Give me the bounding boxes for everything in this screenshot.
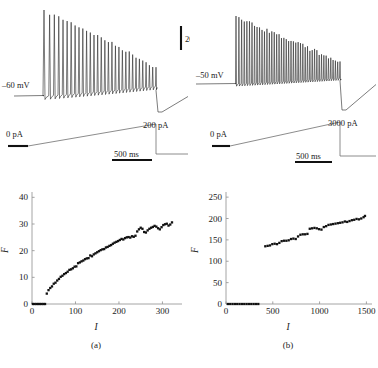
resting-voltage-label-b: –50 mV	[195, 70, 224, 80]
time-scalebar-label-a: 500 ms	[114, 149, 139, 159]
svg-text:0: 0	[218, 299, 223, 309]
resting-voltage-label-a: –60 mV	[1, 80, 30, 90]
figure-container: –60 mV 20 mV 0 pA 200 pA 500 ms –50 mV 0…	[0, 0, 378, 368]
svg-text:100: 100	[209, 256, 223, 266]
y-axis-title-a: F	[0, 247, 10, 254]
svg-text:200: 200	[209, 214, 223, 224]
chart-a-datapoints	[32, 221, 173, 305]
current-end-label-b: 3000 pA	[328, 118, 358, 128]
svg-text:0: 0	[30, 306, 35, 316]
svg-text:10: 10	[19, 272, 29, 282]
svg-text:0: 0	[224, 306, 229, 316]
spike-train-a	[14, 10, 188, 112]
x-axis-title-a: I	[93, 322, 98, 332]
chart-b-axes: 050100150200250050010001500	[209, 192, 376, 316]
current-end-label-a: 200 pA	[143, 120, 169, 130]
svg-text:20: 20	[19, 246, 29, 256]
fi-curve-panel-b: 050100150200250050010001500 F I (b)	[188, 178, 378, 368]
svg-text:1500: 1500	[357, 306, 376, 316]
current-start-label-a: 0 pA	[6, 129, 24, 139]
svg-text:50: 50	[213, 278, 223, 288]
fi-curve-panel-a: 0102030400100200300 F I (a)	[0, 178, 190, 368]
trace-svg-a: –60 mV 20 mV 0 pA 200 pA 500 ms	[0, 0, 190, 178]
voltage-trace-panel-a: –60 mV 20 mV 0 pA 200 pA 500 ms	[0, 0, 190, 178]
svg-text:0: 0	[24, 299, 29, 309]
svg-text:30: 30	[19, 219, 29, 229]
x-axis-title-b: I	[285, 322, 290, 332]
svg-text:500: 500	[266, 306, 280, 316]
current-start-label-b: 0 pA	[210, 129, 228, 139]
svg-text:150: 150	[209, 235, 223, 245]
fi-chart-svg-a: 0102030400100200300 F I (a)	[0, 178, 190, 368]
svg-text:250: 250	[209, 192, 223, 202]
svg-text:200: 200	[112, 306, 126, 316]
panel-caption-b: (b)	[283, 340, 294, 350]
svg-text:1000: 1000	[311, 306, 330, 316]
svg-text:40: 40	[19, 192, 29, 202]
voltage-trace-panel-b: –50 mV 0 pA 3000 pA 500 ms	[188, 0, 378, 178]
y-axis-title-b: F	[190, 247, 200, 254]
chart-b-datapoints	[227, 215, 366, 305]
svg-text:100: 100	[69, 306, 83, 316]
fi-chart-svg-b: 050100150200250050010001500 F I (b)	[188, 178, 378, 368]
spike-train-b	[196, 16, 376, 110]
time-scalebar-label-b: 500 ms	[296, 151, 321, 161]
chart-a-axes: 0102030400100200300	[19, 192, 182, 316]
panel-caption-a: (a)	[91, 340, 101, 350]
svg-text:300: 300	[156, 306, 170, 316]
trace-svg-b: –50 mV 0 pA 3000 pA 500 ms	[188, 0, 378, 178]
